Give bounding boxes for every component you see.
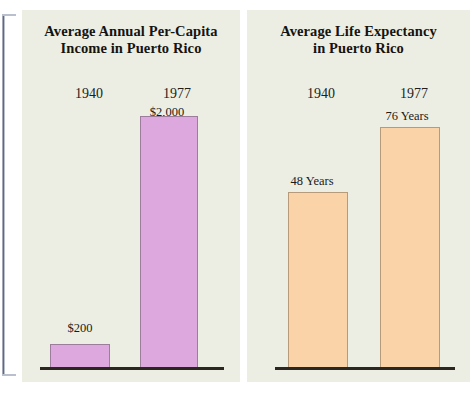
- chart-panel-life-expectancy: Average Life Expectancy in Puerto Rico 1…: [247, 10, 470, 382]
- chart-title-life-expectancy: Average Life Expectancy in Puerto Rico: [247, 23, 470, 57]
- life-expectancy-value-label-1940: 48 Years: [269, 174, 355, 189]
- chart-panel-income: Average Annual Per-Capita Income in Puer…: [22, 10, 240, 382]
- chart-title-income-line1: Average Annual Per-Capita: [44, 23, 217, 39]
- page-edge-artifact: [2, 15, 5, 375]
- income-bar-1940: [50, 344, 110, 368]
- income-year-label-1977: 1977: [140, 86, 214, 102]
- chart-title-income: Average Annual Per-Capita Income in Puer…: [22, 23, 240, 57]
- life-expectancy-baseline-axis: [275, 367, 455, 370]
- income-value-label-1940: $200: [37, 321, 123, 336]
- life-expectancy-value-label-1977: 76 Years: [364, 109, 450, 124]
- life-expectancy-year-label-1977: 1977: [377, 86, 451, 102]
- life-expectancy-bar-1977: [380, 127, 440, 368]
- figure-canvas: Average Annual Per-Capita Income in Puer…: [0, 0, 470, 396]
- income-baseline-axis: [40, 367, 224, 370]
- life-expectancy-bar-1940: [288, 192, 348, 368]
- chart-title-life-expectancy-line2: in Puerto Rico: [247, 40, 470, 57]
- life-expectancy-year-label-1940: 1940: [284, 86, 358, 102]
- chart-title-life-expectancy-line1: Average Life Expectancy: [280, 23, 437, 39]
- income-bar-1977: [140, 116, 198, 368]
- chart-title-income-line2: Income in Puerto Rico: [22, 40, 240, 57]
- page-edge-artifact-bottom-cap: [2, 374, 16, 376]
- page-edge-artifact-top-cap: [2, 14, 16, 16]
- income-year-label-1940: 1940: [52, 86, 126, 102]
